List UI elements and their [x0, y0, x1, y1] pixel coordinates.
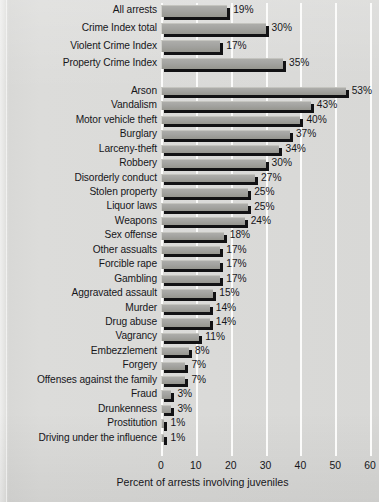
x-axis-title: Percent of arrests involving juveniles — [0, 476, 379, 488]
bar-row: Burglary37% — [0, 130, 379, 144]
bar-value-label: 7% — [191, 374, 206, 385]
bar — [161, 87, 346, 95]
bar-container — [161, 304, 210, 312]
x-tick-40: 40 — [290, 460, 310, 471]
category-label: Embezzlement — [91, 345, 157, 356]
bar — [161, 347, 189, 355]
bar-value-label: 17% — [226, 258, 246, 269]
bar-row: Sex offense18% — [0, 232, 379, 246]
bar-container — [161, 289, 213, 297]
bar-row: Weapons24% — [0, 217, 379, 231]
category-label: Liquor laws — [107, 200, 157, 211]
bar-container — [161, 101, 311, 109]
bar-value-label: 27% — [261, 172, 281, 183]
bar — [161, 376, 185, 384]
category-label: Vagrancy — [116, 330, 157, 341]
bar — [161, 101, 311, 109]
bar — [161, 289, 213, 297]
bar-value-label: 24% — [251, 215, 271, 226]
category-label: Fraud — [131, 388, 157, 399]
bar-container — [161, 87, 346, 95]
bar-value-label: 17% — [226, 273, 246, 284]
bar-value-label: 15% — [219, 287, 239, 298]
category-label: Larceny-theft — [99, 143, 157, 154]
x-tick-10: 10 — [186, 460, 206, 471]
bar-value-label: 11% — [205, 331, 225, 342]
bar-value-label: 35% — [289, 57, 309, 68]
bar — [161, 333, 199, 341]
category-label: Drunkenness — [98, 403, 157, 414]
bar-value-label: 18% — [230, 229, 250, 240]
bar-container — [161, 174, 255, 182]
bar — [161, 434, 164, 442]
bar — [161, 203, 248, 211]
category-label: Motor vehicle theft — [76, 114, 157, 125]
bar-container — [161, 145, 279, 153]
bar-container — [161, 159, 266, 167]
bar-container — [161, 130, 290, 138]
category-label: Vandalism — [111, 99, 157, 110]
x-axis-title-text: Percent of arrests involving juveniles — [117, 476, 289, 488]
bar — [161, 304, 210, 312]
bar — [161, 174, 255, 182]
bar — [161, 362, 185, 370]
x-tick-60: 60 — [360, 460, 379, 471]
horizontal-bar-chart: All arrests19%Crime Index total30%Violen… — [0, 0, 379, 502]
bar — [161, 188, 248, 196]
category-label: Aggravated assault — [72, 287, 157, 298]
bar — [161, 40, 220, 52]
bar-row: Murder14% — [0, 304, 379, 318]
bar-value-label: 3% — [177, 403, 192, 414]
bar — [161, 419, 164, 427]
bar-row: Aggravated assault15% — [0, 289, 379, 303]
bar-value-label: 34% — [285, 143, 305, 154]
bar — [161, 159, 266, 167]
bar-row: Vagrancy11% — [0, 333, 379, 347]
bar-container — [161, 188, 248, 196]
category-label: Forcible rape — [99, 258, 157, 269]
category-label: Forgery — [123, 359, 157, 370]
category-label: Weapons — [115, 215, 157, 226]
bar-value-label: 8% — [195, 345, 210, 356]
bar — [161, 5, 227, 17]
category-label: Other assualts — [93, 244, 157, 255]
bar-container — [161, 405, 171, 413]
bar-value-label: 17% — [226, 244, 246, 255]
bar — [161, 405, 171, 413]
category-label: Crime Index total — [82, 22, 157, 33]
bar-value-label: 40% — [306, 114, 326, 125]
bar-value-label: 53% — [352, 85, 372, 96]
category-label: Property Crime Index — [63, 57, 157, 68]
bar-row: Gambling17% — [0, 275, 379, 289]
category-label: Arson — [131, 85, 157, 96]
bar-row: Robbery30% — [0, 159, 379, 173]
bar-row: All arrests19% — [0, 5, 379, 23]
bar-container — [161, 318, 210, 326]
bar-container — [161, 376, 185, 384]
bar-value-label: 43% — [317, 99, 337, 110]
bar-container — [161, 333, 199, 341]
bar-container — [161, 390, 171, 398]
category-label: Gambling — [114, 273, 157, 284]
bar — [161, 217, 245, 225]
bar-value-label: 14% — [216, 316, 236, 327]
bar-row: Larceny-theft34% — [0, 145, 379, 159]
category-label: Prostitution — [107, 417, 157, 428]
bar-container — [161, 116, 300, 124]
bar-container — [161, 419, 164, 427]
category-label: Stolen property — [89, 186, 157, 197]
bar-row: Other assualts17% — [0, 246, 379, 260]
bar-container — [161, 347, 189, 355]
bar-row: Crime Index total30% — [0, 23, 379, 41]
bar-value-label: 1% — [170, 417, 185, 428]
bar — [161, 58, 283, 70]
bar-container — [161, 434, 164, 442]
bar-container — [161, 362, 185, 370]
x-axis-tick-labels: 0102030405060 — [0, 460, 379, 474]
bar-row: Forcible rape17% — [0, 260, 379, 274]
category-label: Sex offense — [104, 229, 157, 240]
category-label: Disorderly conduct — [74, 172, 157, 183]
bar-container — [161, 246, 220, 254]
bar-container — [161, 23, 266, 35]
bar — [161, 246, 220, 254]
